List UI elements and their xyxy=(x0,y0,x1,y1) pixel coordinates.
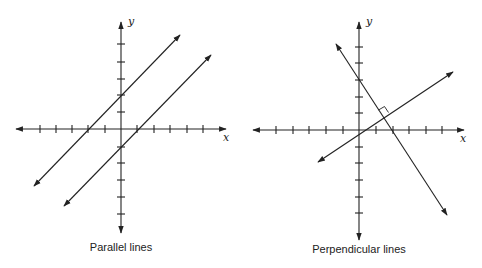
upper-parallel-line xyxy=(34,35,180,186)
y-axis-label-left: y xyxy=(128,15,134,28)
lower-parallel-line xyxy=(64,55,211,206)
parallel-lines-graph xyxy=(16,22,226,233)
caption-perpendicular-lines: Perpendicular lines xyxy=(312,243,406,255)
perpendicular-lines-graph xyxy=(253,22,464,240)
x-axis-label-left: x xyxy=(223,131,229,144)
x-axis-label-right: x xyxy=(460,132,466,145)
caption-parallel-lines: Parallel lines xyxy=(90,241,152,253)
y-axis-label-right: y xyxy=(366,15,372,28)
diagram-canvas xyxy=(0,0,482,268)
shallow-line xyxy=(318,72,453,162)
